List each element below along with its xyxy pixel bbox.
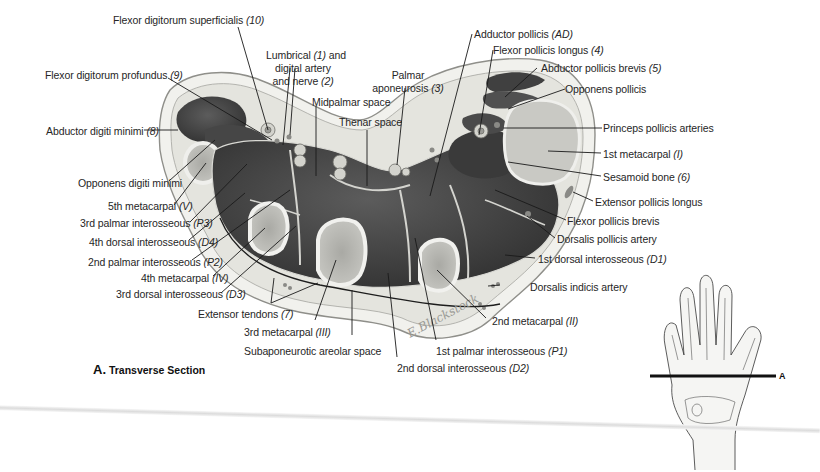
label-dorsalis-pollicis-artery: Dorsalis pollicis artery: [557, 233, 657, 245]
label-lumbrical: Lumbrical (1) and: [266, 49, 340, 61]
label-second-metacarpal: 2nd metacarpal (II): [492, 315, 578, 327]
label-flexor-digitorum-profundus: Flexor digitorum profundus (9): [45, 69, 183, 81]
first-metacarpal-bone: [504, 100, 579, 184]
label-abductor-pollicis-brevis: Abductor pollicis brevis (5): [541, 62, 661, 74]
fourth-metacarpal-bone: [250, 203, 288, 253]
label-extensor-tendons: Extensor tendons (7): [198, 308, 294, 320]
label-flexor-pollicis-longus: Flexor pollicis longus (4): [493, 44, 604, 56]
section-marker-label: A: [779, 371, 786, 381]
label-third-dorsal-interosseous: 3rd dorsal interosseous (D3): [116, 288, 246, 300]
label-extensor-pollicis-longus: Extensor pollicis longus: [595, 196, 702, 208]
label-first-palmar-interosseous: 1st palmar interosseous (P1): [436, 345, 567, 357]
label-flexor-pollicis-brevis: Flexor pollicis brevis: [567, 215, 659, 227]
label-fourth-metacarpal: 4th metacarpal (IV): [141, 272, 228, 284]
label-opponens-pollicis: Opponens pollicis: [565, 83, 646, 95]
label-sesamoid-bone: Sesamoid bone (6): [603, 171, 690, 183]
label-first-metacarpal: 1st metacarpal (I): [603, 148, 683, 160]
label-palmar-aponeurosis: aponeurosis (3): [372, 82, 444, 94]
label-and-nerve: and nerve (2): [266, 75, 340, 87]
label-fifth-metacarpal: 5th metacarpal (V): [108, 200, 193, 212]
label-palmar: Palmar: [376, 69, 440, 81]
label-fourth-dorsal-interosseous: 4th dorsal interosseous (D4): [89, 236, 218, 248]
label-opponens-digiti-minimi: Opponens digiti minimi: [78, 177, 182, 189]
second-metacarpal-bone: [420, 240, 458, 291]
label-third-palmar-interosseous: 3rd palmar interosseous (P3): [80, 217, 213, 229]
label-midpalmar-space: Midpalmar space: [312, 96, 390, 108]
label-digital-artery: digital artery: [266, 62, 340, 74]
label-abductor-digiti-minimi: Abductor digiti minimi (8): [46, 125, 159, 137]
label-flexor-digitorum-superficialis: Flexor digitorum superficialis (10): [113, 14, 264, 26]
label-third-metacarpal: 3rd metacarpal (III): [244, 326, 331, 338]
label-princeps-pollicis-arteries: Princeps pollicis arteries: [603, 122, 714, 134]
label-second-dorsal-interosseous: 2nd dorsal interosseous (D2): [397, 362, 529, 374]
label-first-dorsal-interosseous: 1st dorsal interosseous (D1): [538, 253, 667, 265]
label-second-palmar-interosseous: 2nd palmar interosseous (P2): [88, 256, 223, 268]
third-metacarpal-bone: [318, 220, 365, 285]
hand-locator-diagram: [650, 275, 776, 470]
label-adductor-pollicis: Adductor pollicis (AD): [474, 28, 573, 40]
figure-caption: A. Transverse Section: [93, 362, 205, 377]
label-subaponeurotic-areolar-space: Subaponeurotic areolar space: [244, 345, 381, 357]
label-dorsalis-indicis-artery: Dorsalis indicis artery: [530, 281, 627, 293]
label-thenar-space: Thenar space: [339, 116, 402, 128]
